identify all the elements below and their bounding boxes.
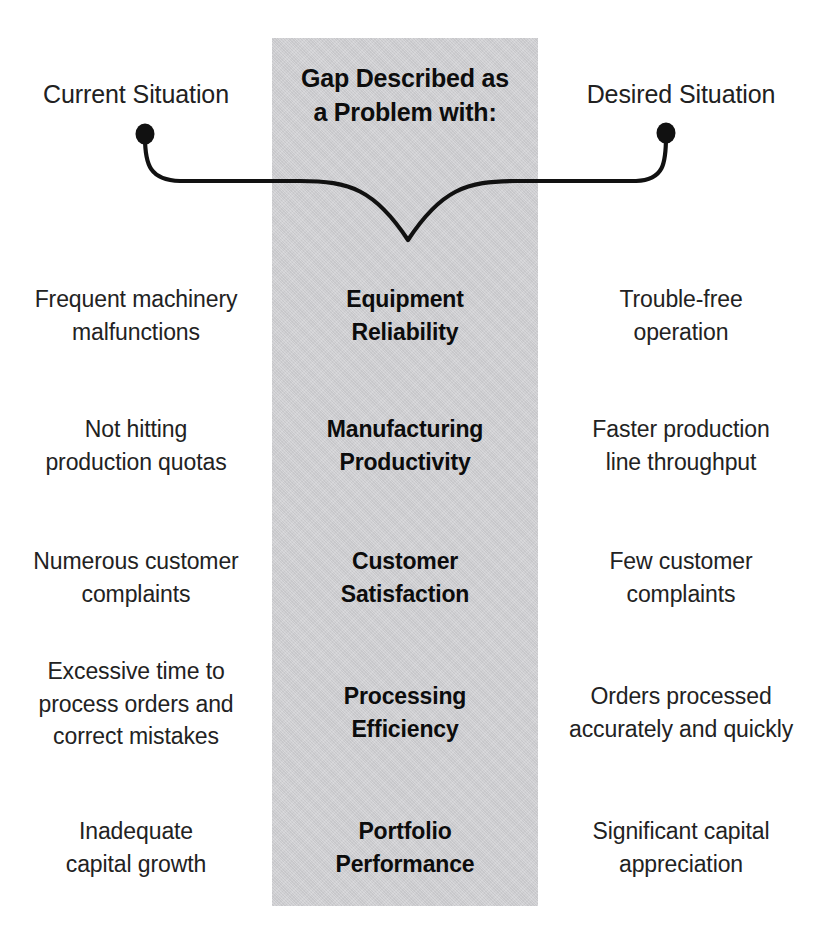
row-1-gap-line-1: Equipment: [272, 283, 538, 316]
row-3-current-situation: Numerous customer complaints: [0, 545, 272, 610]
current-situation-anchor-dot: [136, 124, 155, 145]
row-5-current-line-1: Inadequate: [0, 815, 272, 848]
row-2-gap-line-1: Manufacturing: [272, 413, 538, 446]
row-1-current-situation: Frequent machinery malfunctions: [0, 283, 272, 348]
row-5-desired-line-1: Significant capital: [538, 815, 824, 848]
row-5-gap-line-1: Portfolio: [272, 815, 538, 848]
desired-situation-anchor-dot: [657, 123, 676, 144]
row-4-desired-line-1: Orders processed: [538, 680, 824, 713]
header-current-situation: Current Situation: [0, 78, 272, 112]
row-3-current-line-2: complaints: [0, 578, 272, 611]
row-3-desired-line-2: complaints: [538, 578, 824, 611]
row-4-desired-situation: Orders processed accurately and quickly: [538, 680, 824, 745]
row-3-current-line-1: Numerous customer: [0, 545, 272, 578]
row-1-gap-line-2: Reliability: [272, 316, 538, 349]
row-3-desired-situation: Few customer complaints: [538, 545, 824, 610]
row-1-current-line-1: Frequent machinery: [0, 283, 272, 316]
row-4-current-line-2: process orders and: [0, 688, 272, 721]
row-4-current-line-3: correct mistakes: [0, 720, 272, 753]
row-2-gap-line-2: Productivity: [272, 446, 538, 479]
row-5-current-line-2: capital growth: [0, 848, 272, 881]
header-desired-situation: Desired Situation: [538, 78, 824, 112]
diagram-canvas: Current Situation Gap Described as a Pro…: [0, 0, 824, 948]
row-5-desired-line-2: appreciation: [538, 848, 824, 881]
row-4-current-situation: Excessive time to process orders and cor…: [0, 655, 272, 753]
row-1-desired-line-1: Trouble-free: [538, 283, 824, 316]
row-4-current-line-1: Excessive time to: [0, 655, 272, 688]
row-4-desired-line-2: accurately and quickly: [538, 713, 824, 746]
row-5-gap-line-2: Performance: [272, 848, 538, 881]
row-3-gap-line-1: Customer: [272, 545, 538, 578]
row-5-desired-situation: Significant capital appreciation: [538, 815, 824, 880]
row-2-desired-situation: Faster production line throughput: [538, 413, 824, 478]
row-1-desired-situation: Trouble-free operation: [538, 283, 824, 348]
row-2-current-line-1: Not hitting: [0, 413, 272, 446]
header-current-situation-label: Current Situation: [43, 80, 229, 108]
row-2-desired-line-2: line throughput: [538, 446, 824, 479]
header-gap-described: Gap Described as a Problem with:: [272, 62, 538, 129]
row-2-gap-category: Manufacturing Productivity: [272, 413, 538, 478]
row-1-current-line-2: malfunctions: [0, 316, 272, 349]
row-4-gap-line-1: Processing: [272, 680, 538, 713]
row-3-gap-category: Customer Satisfaction: [272, 545, 538, 610]
header-desired-situation-label: Desired Situation: [587, 80, 776, 108]
row-2-desired-line-1: Faster production: [538, 413, 824, 446]
row-5-current-situation: Inadequate capital growth: [0, 815, 272, 880]
header-gap-line2: a Problem with:: [272, 96, 538, 130]
row-4-gap-category: Processing Efficiency: [272, 680, 538, 745]
row-4-gap-line-2: Efficiency: [272, 713, 538, 746]
header-gap-line1: Gap Described as: [272, 62, 538, 96]
row-2-current-line-2: production quotas: [0, 446, 272, 479]
row-3-desired-line-1: Few customer: [538, 545, 824, 578]
row-5-gap-category: Portfolio Performance: [272, 815, 538, 880]
row-3-gap-line-2: Satisfaction: [272, 578, 538, 611]
row-1-gap-category: Equipment Reliability: [272, 283, 538, 348]
row-2-current-situation: Not hitting production quotas: [0, 413, 272, 478]
row-1-desired-line-2: operation: [538, 316, 824, 349]
